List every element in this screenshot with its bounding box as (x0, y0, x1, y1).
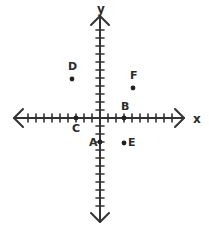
point-label-c: C (72, 123, 80, 134)
axes-svg (0, 0, 209, 233)
coordinate-plane-figure: ABCDEF x y (0, 0, 209, 233)
data-point-d (70, 77, 75, 82)
data-point-c (74, 116, 79, 121)
data-point-e (122, 141, 127, 146)
y-axis-label: y (97, 3, 105, 15)
point-label-f: F (130, 70, 138, 81)
point-label-a: A (89, 137, 98, 148)
point-label-d: D (68, 61, 77, 72)
data-point-b (122, 116, 127, 121)
x-axis-label: x (193, 113, 201, 125)
point-label-b: B (121, 101, 129, 112)
data-point-f (131, 86, 136, 91)
data-point-a (98, 140, 103, 145)
point-label-e: E (128, 137, 136, 148)
